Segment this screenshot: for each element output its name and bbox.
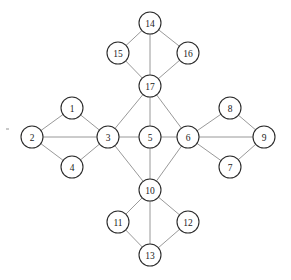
graph-edge-11-13 (126, 230, 143, 247)
artifact-layer (6, 128, 9, 130)
node-label-12: 12 (183, 218, 193, 228)
node-label-15: 15 (113, 49, 123, 59)
node-layer: 1234567891011121314151617 (21, 12, 275, 266)
graph-edge-16-17 (158, 60, 179, 79)
node-label-16: 16 (183, 49, 193, 59)
graph-node-3[interactable]: 3 (97, 126, 119, 148)
graph-node-4[interactable]: 4 (61, 156, 83, 178)
graph-edge-1-3 (81, 115, 100, 130)
node-label-1: 1 (70, 104, 75, 114)
graph-edge-14-15 (126, 31, 142, 46)
graph-diagram: 1234567891011121314151617 (0, 0, 291, 280)
node-label-14: 14 (145, 19, 155, 29)
graph-node-14[interactable]: 14 (139, 12, 161, 34)
graph-edge-10-12 (158, 197, 179, 215)
graph-edge-6-10 (156, 146, 181, 181)
graph-edge-8-9 (238, 115, 255, 130)
node-label-5: 5 (148, 133, 153, 143)
node-label-10: 10 (145, 186, 155, 196)
graph-node-15[interactable]: 15 (107, 42, 129, 64)
graph-node-12[interactable]: 12 (177, 211, 199, 233)
graph-node-17[interactable]: 17 (139, 75, 161, 97)
graph-edge-15-17 (126, 61, 143, 78)
node-label-13: 13 (145, 251, 155, 261)
graph-node-2[interactable]: 2 (21, 126, 43, 148)
graph-edge-1-2 (41, 114, 63, 130)
node-label-17: 17 (145, 82, 155, 92)
graph-edge-12-13 (158, 229, 179, 248)
graph-node-9[interactable]: 9 (253, 126, 275, 148)
graph-edge-3-17 (115, 94, 143, 128)
graph-edge-2-4 (41, 144, 63, 161)
node-label-6: 6 (186, 133, 191, 143)
graph-node-11[interactable]: 11 (107, 211, 129, 233)
node-label-9: 9 (262, 133, 267, 143)
graph-node-5[interactable]: 5 (139, 126, 161, 148)
node-label-2: 2 (30, 133, 35, 143)
node-label-4: 4 (70, 163, 75, 173)
graph-edge-6-17 (157, 95, 182, 128)
graph-edge-6-8 (197, 114, 221, 131)
graph-node-13[interactable]: 13 (139, 244, 161, 266)
speck-artifact (6, 128, 9, 130)
graph-node-7[interactable]: 7 (219, 156, 241, 178)
graph-edge-3-10 (115, 146, 143, 182)
node-label-7: 7 (228, 163, 233, 173)
graph-node-16[interactable]: 16 (177, 42, 199, 64)
node-label-11: 11 (113, 218, 122, 228)
graph-node-8[interactable]: 8 (219, 97, 241, 119)
graph-edge-7-9 (238, 144, 256, 159)
node-label-8: 8 (228, 104, 233, 114)
graph-node-10[interactable]: 10 (139, 179, 161, 201)
graph-node-1[interactable]: 1 (61, 97, 83, 119)
graph-node-6[interactable]: 6 (177, 126, 199, 148)
graph-canvas: 1234567891011121314151617 (0, 0, 291, 280)
graph-edge-3-4 (80, 144, 99, 160)
graph-edge-14-16 (159, 30, 180, 46)
graph-edge-6-7 (197, 143, 221, 160)
node-label-3: 3 (106, 133, 111, 143)
graph-edge-10-11 (126, 198, 142, 214)
